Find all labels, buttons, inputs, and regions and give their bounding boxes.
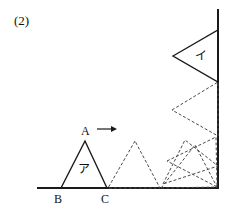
direction-arrow (97, 126, 117, 132)
dashed-triangles-group (108, 82, 218, 188)
triangle-label-i-end: イ (195, 50, 207, 62)
figure-page: (2) A B C ア イ (0, 0, 229, 209)
dashed-triangle-2 (172, 82, 218, 136)
dashed-triangle-5 (167, 137, 217, 187)
dashed-triangle-1 (108, 141, 160, 188)
geometry-figure (0, 0, 229, 209)
vertex-label-b: B (54, 193, 62, 205)
vertex-label-c: C (101, 193, 109, 205)
vertex-label-a: A (81, 125, 90, 137)
arrow-head-icon (111, 126, 117, 132)
dashed-triangle-3 (163, 140, 218, 184)
triangle-label-a-start: ア (78, 163, 90, 175)
problem-number: (2) (14, 14, 29, 27)
